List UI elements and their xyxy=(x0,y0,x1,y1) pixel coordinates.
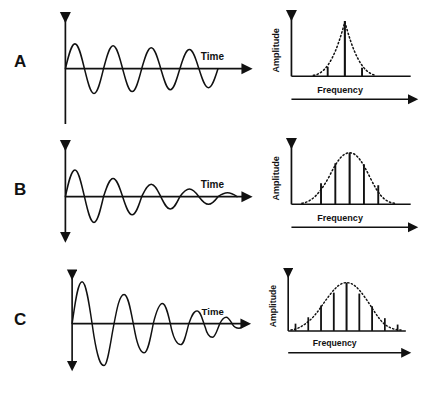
panel-c-graphics: Time Amplitude Frequency xyxy=(0,258,436,382)
panel-a-graphics: Time Amplitude Frequency xyxy=(0,0,436,124)
row-a: A Time Amplitude Fre xyxy=(0,0,436,124)
frequency-axis-label-a: Frequency xyxy=(317,85,363,95)
damped-oscillation-spectra-figure: A Time Amplitude Fre xyxy=(0,0,436,394)
amplitude-axis-label-b: Amplitude xyxy=(271,156,281,200)
row-b: B Time Amplitude Frequency xyxy=(0,128,436,252)
amplitude-axis-label-c: Amplitude xyxy=(268,285,278,328)
row-c: C Time Amplit xyxy=(0,258,436,382)
frequency-axis-label-b: Frequency xyxy=(317,213,363,223)
time-axis-label-a: Time xyxy=(201,51,225,62)
time-axis-label-c: Time xyxy=(202,306,224,317)
time-axis-label-b: Time xyxy=(201,179,225,190)
panel-b-graphics: Time Amplitude Frequency xyxy=(0,128,436,252)
frequency-axis-label-c: Frequency xyxy=(313,338,357,348)
amplitude-axis-label-a: Amplitude xyxy=(271,28,281,72)
